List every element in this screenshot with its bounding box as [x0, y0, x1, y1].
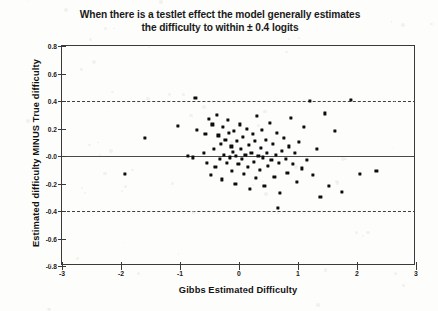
- x-axis-tick-inner: [416, 262, 417, 266]
- data-point: [232, 150, 235, 153]
- data-point: [233, 130, 236, 133]
- data-point: [225, 161, 228, 164]
- data-point: [249, 187, 252, 190]
- data-point: [253, 139, 256, 142]
- data-point: [279, 192, 282, 195]
- data-point: [202, 152, 205, 155]
- x-axis-tick-inner: [62, 262, 63, 266]
- data-point: [265, 152, 268, 155]
- y-axis-tick-label: -0.8: [46, 263, 57, 270]
- zero-line: [62, 156, 414, 157]
- y-axis-tick-label: 0.8: [48, 43, 57, 50]
- y-axis-tick-label: 0.6: [48, 70, 57, 77]
- data-point: [341, 190, 344, 193]
- data-point: [243, 172, 246, 175]
- data-point: [258, 168, 261, 171]
- x-axis-tick-label: 1: [296, 270, 300, 277]
- data-point: [210, 174, 213, 177]
- data-point: [246, 165, 249, 168]
- y-axis-tick-label: -0.2: [46, 180, 57, 187]
- data-point: [204, 132, 207, 135]
- data-point: [206, 161, 209, 164]
- data-point: [255, 176, 258, 179]
- paper-speckle: [89, 38, 92, 41]
- data-point: [305, 159, 308, 162]
- data-point: [242, 135, 245, 138]
- data-point: [280, 149, 283, 152]
- y-axis-tick-inner: [62, 129, 66, 130]
- data-point: [236, 139, 239, 142]
- y-axis-tick-inner: [62, 74, 66, 75]
- upper-tolerance-line: [62, 101, 414, 102]
- data-point: [224, 138, 227, 141]
- data-point: [262, 156, 265, 159]
- data-point: [247, 143, 250, 146]
- data-point: [234, 182, 237, 185]
- data-point: [311, 174, 314, 177]
- data-point: [226, 119, 229, 122]
- chart-title-line-2: the difficulty to within ± 0.4 logits: [30, 22, 410, 35]
- data-point: [323, 112, 326, 115]
- data-point: [213, 148, 216, 151]
- x-axis-tick-label: -1: [177, 270, 183, 277]
- data-point: [223, 153, 226, 156]
- data-point: [282, 137, 285, 140]
- data-point: [216, 113, 219, 116]
- data-point: [308, 99, 311, 102]
- data-point: [207, 117, 210, 120]
- paper-speckle: [27, 0, 28, 1]
- data-point: [375, 170, 378, 173]
- y-axis-title: Estimated difficulty MINUS True difficul…: [31, 38, 41, 268]
- chart-title: When there is a testlet effect the model…: [30, 9, 410, 34]
- paper-speckle: [298, 37, 300, 39]
- x-axis-tick-inner: [298, 262, 299, 266]
- data-point: [251, 132, 254, 135]
- data-point: [274, 153, 277, 156]
- data-point: [260, 128, 263, 131]
- x-axis-tick-inner: [357, 262, 358, 266]
- data-point: [298, 141, 301, 144]
- data-point: [230, 170, 233, 173]
- data-point: [319, 196, 322, 199]
- y-axis-tick-inner: [62, 156, 66, 157]
- x-axis-tick-inner: [239, 262, 240, 266]
- data-point: [264, 138, 267, 141]
- data-point: [220, 178, 223, 181]
- plot-canvas: [62, 46, 414, 264]
- data-point: [250, 152, 253, 155]
- data-point: [238, 123, 241, 126]
- x-axis-tick-label: -2: [118, 270, 124, 277]
- data-point: [273, 175, 276, 178]
- data-point: [277, 161, 280, 164]
- data-point: [292, 163, 295, 166]
- paper-speckle: [288, 38, 290, 40]
- data-point: [240, 157, 243, 160]
- data-point: [284, 157, 287, 160]
- paper-speckle: [324, 268, 327, 271]
- data-point: [259, 146, 262, 149]
- data-point: [270, 159, 273, 162]
- chart-title-line-1: When there is a testlet effect the model…: [80, 9, 360, 20]
- data-point: [124, 172, 127, 175]
- data-point: [239, 148, 242, 151]
- x-axis-tick-inner: [180, 262, 181, 266]
- data-point: [327, 185, 330, 188]
- chart-page: When there is a testlet effect the model…: [0, 0, 438, 311]
- data-point: [266, 164, 269, 167]
- data-point: [229, 156, 232, 159]
- x-axis-tick-label: 2: [355, 270, 359, 277]
- data-point: [177, 124, 180, 127]
- data-point: [286, 171, 289, 174]
- x-axis-tick-inner: [121, 262, 122, 266]
- data-point: [276, 207, 279, 210]
- paper-speckle: [394, 272, 397, 275]
- y-axis-tick-label: -0.6: [46, 235, 57, 242]
- y-axis-tick-inner: [62, 101, 66, 102]
- data-point: [194, 97, 197, 100]
- x-axis-tick-label: 0: [237, 270, 241, 277]
- plot-area: -0.8-0.6-0.4-0.2-0.00.20.40.60.8-3-2-101…: [61, 45, 415, 265]
- data-point: [191, 156, 194, 159]
- data-point: [186, 154, 189, 157]
- y-axis-tick-label: -0.0: [46, 153, 57, 160]
- data-point: [245, 127, 248, 130]
